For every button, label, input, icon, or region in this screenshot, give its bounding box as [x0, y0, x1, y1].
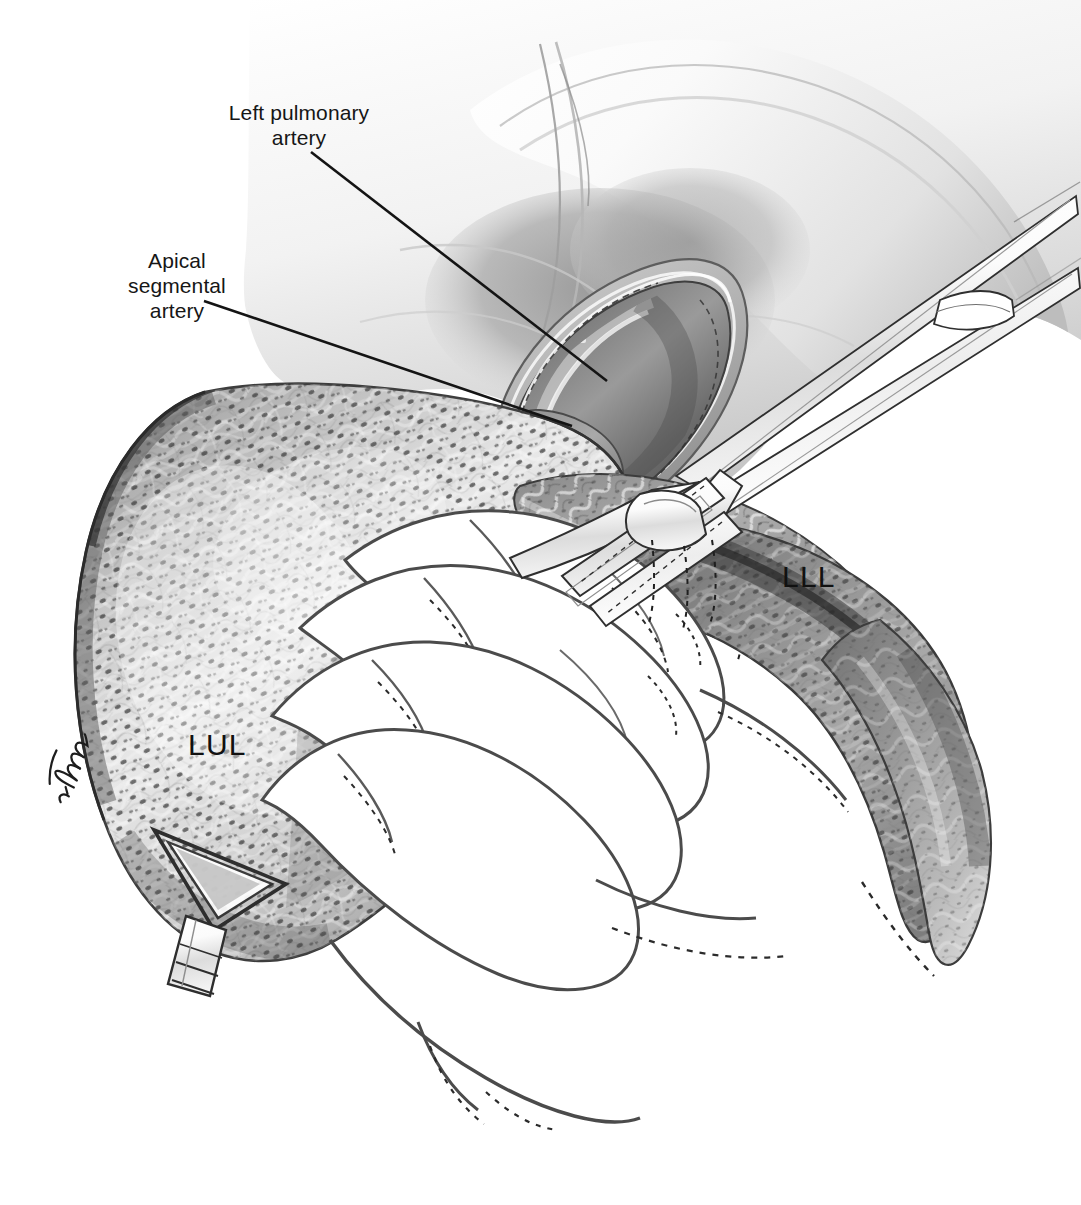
- artist-signature: [36, 712, 110, 810]
- label-left-pulmonary-artery: Left pulmonary artery: [228, 100, 370, 150]
- label-left-lower-lobe: LLL: [782, 560, 836, 594]
- label-apical-segmental-artery: Apical segmental artery: [118, 248, 236, 323]
- surgical-illustration-figure: Left pulmonary artery Apical segmental a…: [0, 0, 1081, 1205]
- illustration-canvas: [0, 0, 1081, 1205]
- label-left-upper-lobe: LUL: [188, 728, 247, 762]
